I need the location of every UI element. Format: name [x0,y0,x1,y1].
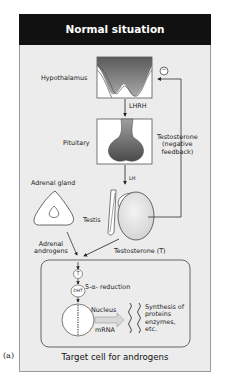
mrna-label: mRNA [95,327,115,334]
lhrh-label: LHRH [129,103,147,110]
hypothalamus-illustration [97,57,152,98]
adrenal-androgens-label: Adrenal androgens [34,241,68,256]
target-cell-caption: Target cell for androgens [19,352,211,362]
pituitary-illustration [97,119,152,164]
testosterone-feedback-label: Testosterone (negative feedback) [157,134,198,156]
testis-illustration [108,190,154,240]
pituitary-label: Pituitary [63,140,90,147]
t-circle-label: T [74,271,82,277]
adrenal-gland-label: Adrenal gland [31,180,75,187]
diagram-drawing [0,0,225,381]
nucleus-label: Nucleus [91,307,116,314]
hypothalamus-label: Hypothalamus [41,75,87,82]
panel-label: (a) [3,351,14,360]
adrenal-gland-illustration [34,191,74,225]
reduction-label: 5-α- reduction [85,284,130,291]
synthesis-label: Synthesis of proteins enzymes, etc. [145,304,184,333]
negative-sign: − [161,66,167,73]
adrenal-androgens-arrow [67,232,77,255]
lh-label: LH [129,176,136,182]
dht-label: DHT [71,288,85,293]
testosterone-t-label: Testosterone (T) [114,248,166,255]
testis-label: Testis [83,217,101,224]
